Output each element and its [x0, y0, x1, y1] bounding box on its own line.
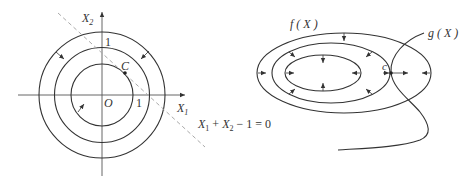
tick-y-1: 1: [105, 35, 111, 49]
constraint-label: g ( X ): [428, 26, 458, 40]
arrow-mid-bl: [289, 89, 295, 94]
objective-label: f ( X ): [290, 17, 318, 31]
gradient-arrow-inner: [78, 104, 84, 112]
gradient-arrow-left: [56, 52, 64, 59]
point-c-right: [389, 71, 393, 75]
optimization-diagrams: X2 X1 O 1 1 C X1 + X2 − 1 = 0 f ( X ) g …: [0, 0, 474, 185]
point-c-right-label: c: [382, 60, 387, 72]
x1-axis-label: X1: [176, 101, 188, 117]
tick-x-1: 1: [136, 96, 142, 110]
gradient-arrow-right: [141, 51, 149, 59]
arrow-mid-tr: [366, 52, 372, 57]
constraint-curve-g: [338, 33, 428, 150]
constraint-dashed-line: [58, 13, 205, 147]
constraint-equation: X1 + X2 − 1 = 0: [197, 117, 271, 133]
arrow-mid-br: [366, 89, 372, 94]
right-diagram: f ( X ) g ( X ) c: [257, 17, 458, 150]
point-c-label: C: [121, 59, 130, 73]
left-diagram: X2 X1 O 1 1 C X1 + X2 − 1 = 0: [18, 11, 271, 176]
x2-axis-label: X2: [81, 11, 93, 27]
arrow-mid-tl: [289, 52, 295, 57]
origin-label: O: [104, 96, 113, 110]
